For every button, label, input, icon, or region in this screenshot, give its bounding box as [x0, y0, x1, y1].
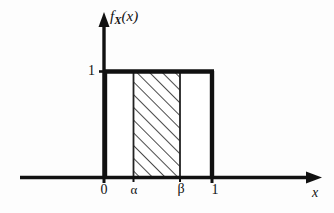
x-axis-tick-label-1: 1	[206, 183, 224, 197]
y-axis-title-subscript: X	[114, 14, 121, 26]
x-axis-tick-label-alpha: α	[125, 183, 143, 196]
x-axis-title: x	[312, 186, 318, 200]
uniform-pdf-diagram	[0, 0, 334, 213]
x-axis-tick-label-0: 0	[95, 183, 113, 197]
y-axis-tick-label-1: 1	[88, 64, 95, 78]
x-axis-tick-label-beta: β	[172, 182, 190, 196]
y-axis-title-argument: (x)	[122, 8, 139, 24]
shaded-probability-region	[133, 72, 180, 177]
figure-canvas: fX(x) x 1 0 α β 1	[0, 0, 334, 213]
y-axis-title: fX(x)	[110, 9, 138, 26]
